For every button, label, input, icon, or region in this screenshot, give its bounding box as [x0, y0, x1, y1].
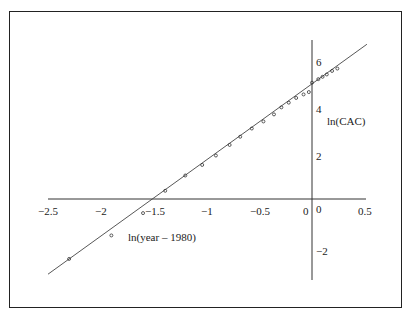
x-tick-label: 0 — [303, 205, 309, 217]
y-axis-label: ln(CAC) — [327, 115, 366, 128]
data-point — [214, 154, 217, 157]
x-tick-label: 0.5 — [358, 205, 372, 217]
data-point — [287, 101, 290, 104]
data-point — [110, 234, 113, 237]
y-tick-label: −2 — [316, 245, 328, 257]
x-tick-label: −1.5 — [145, 205, 165, 217]
data-point — [272, 113, 275, 116]
data-point — [295, 96, 298, 99]
x-tick-label: −1 — [201, 205, 213, 217]
x-axis-label: ln(year – 1980) — [128, 231, 196, 244]
x-tick-label: −0.5 — [250, 205, 270, 217]
x-tick-label: −2 — [95, 205, 107, 217]
y-tick-label: 4 — [316, 103, 322, 115]
data-point — [307, 91, 310, 94]
data-point — [228, 143, 231, 146]
scatter-plot: −2.5 −2 −1.5 −1 −0.5 0 0 0.5 6 4 2 −2 ln… — [0, 0, 411, 318]
data-point — [302, 93, 305, 96]
y-tick-label: 6 — [316, 56, 322, 68]
y-tick-label: 0 — [316, 203, 322, 215]
x-tick-label: −2.5 — [38, 205, 58, 217]
y-tick-label: 2 — [316, 150, 322, 162]
data-point — [336, 67, 339, 70]
data-points — [68, 67, 339, 260]
data-point — [201, 163, 204, 166]
data-point — [262, 120, 265, 123]
